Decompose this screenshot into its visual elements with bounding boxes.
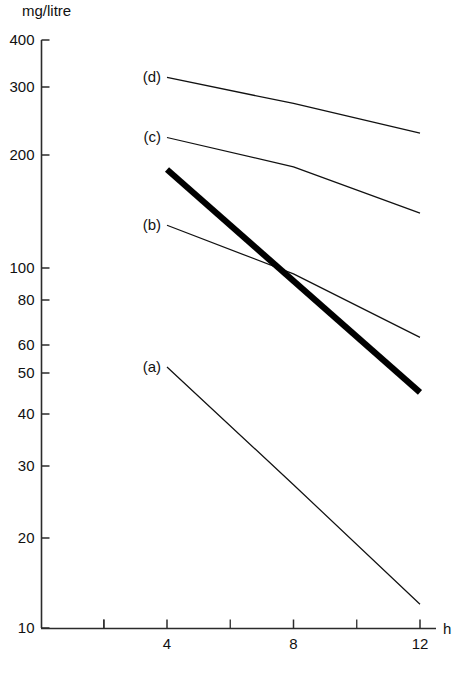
series-label-c: (c) [144,128,162,145]
y-tick-label-80: 80 [18,291,35,308]
chart-canvas: mg/litre h 40030020010080605040302010 48… [0,0,467,675]
y-tick-label-30: 30 [18,457,35,474]
y-tick-label-20: 20 [18,529,35,546]
y-tick-label-50: 50 [18,364,35,381]
x-tick-label-8: 8 [289,635,297,652]
x-tick-label-4: 4 [163,635,171,652]
series-labels-group: (a)(b)(c)(d) [143,68,161,374]
series-label-a: (a) [143,358,161,375]
series-line-bold-line [167,169,420,392]
series-line-d [167,77,420,133]
series-label-b: (b) [143,216,161,233]
series-label-d: (d) [143,68,161,85]
x-axis-ticks: 4812 [104,620,429,652]
y-tick-label-40: 40 [18,405,35,422]
y-axis-title: mg/litre [22,2,71,19]
y-tick-label-300: 300 [9,78,34,95]
x-tick-label-12: 12 [412,635,429,652]
y-axis-ticks: 40030020010080605040302010 [9,31,49,636]
chart-figure: mg/litre h 40030020010080605040302010 48… [0,0,467,675]
series-line-a [167,367,420,604]
y-tick-label-100: 100 [9,259,34,276]
y-tick-label-200: 200 [9,146,34,163]
y-tick-label-60: 60 [18,336,35,353]
y-tick-label-10: 10 [18,619,35,636]
x-axis-title: h [443,620,451,637]
y-tick-label-400: 400 [9,31,34,48]
data-series-group [167,77,420,604]
